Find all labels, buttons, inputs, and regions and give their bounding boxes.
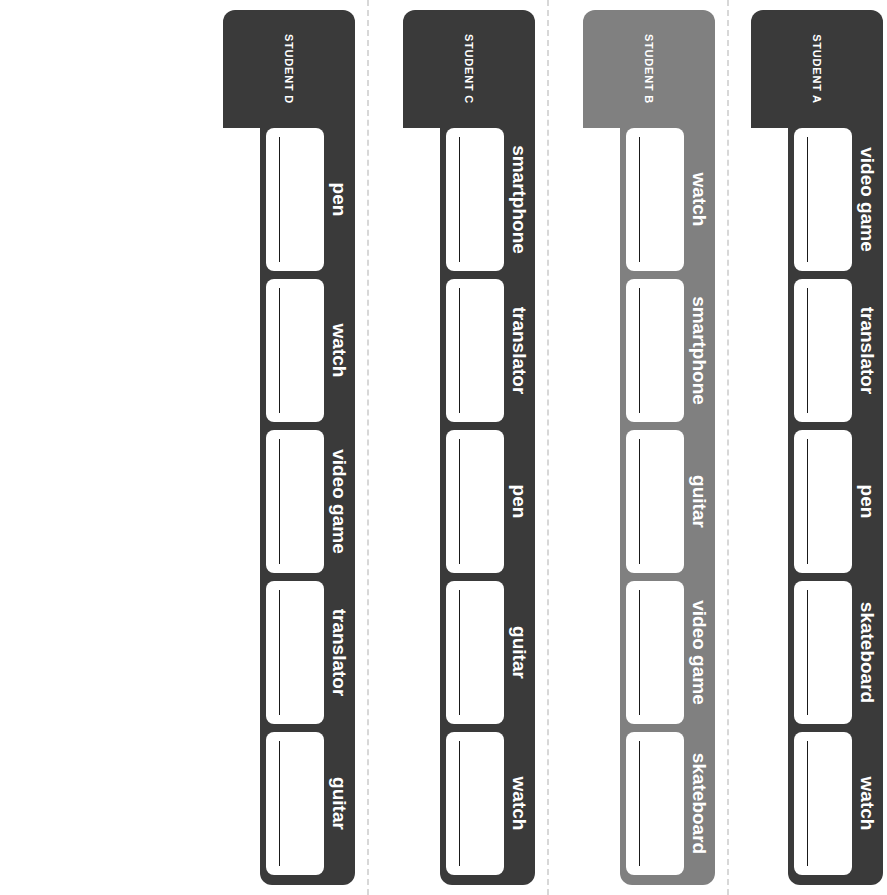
item-label: video game — [327, 430, 349, 573]
worksheet-item: guitar — [440, 581, 535, 724]
write-in-box[interactable] — [266, 128, 324, 271]
item-label: watch — [507, 732, 529, 875]
item-label: pen — [507, 430, 529, 573]
write-in-box[interactable] — [626, 128, 684, 271]
worksheet-item: pen — [260, 128, 355, 271]
write-in-box[interactable] — [794, 732, 852, 875]
worksheet-item: translator — [788, 279, 883, 422]
student-header-label: STUDENT A — [811, 34, 823, 104]
item-label: video game — [687, 581, 709, 724]
worksheet-item: watch — [620, 128, 715, 271]
write-in-rule-line — [639, 137, 640, 262]
write-in-rule-line — [279, 439, 280, 564]
student-card-body: penwatchvideo gametranslatorguitar — [260, 128, 355, 885]
student-header-label: STUDENT C — [463, 34, 475, 104]
write-in-rule-line — [807, 439, 808, 564]
write-in-box[interactable] — [794, 279, 852, 422]
worksheet-item: watch — [788, 732, 883, 875]
write-in-box[interactable] — [446, 128, 504, 271]
write-in-rule-line — [639, 288, 640, 413]
student-card-body: video gametranslatorpenskateboardwatch — [788, 128, 883, 885]
student-card: STUDENT Bwatchsmartphoneguitarvideo game… — [583, 10, 715, 885]
write-in-rule-line — [279, 590, 280, 715]
write-in-box[interactable] — [794, 581, 852, 724]
worksheet-item: video game — [788, 128, 883, 271]
item-label: watch — [687, 128, 709, 271]
write-in-box[interactable] — [626, 581, 684, 724]
student-card-header: STUDENT B — [583, 10, 715, 128]
student-card-body: watchsmartphoneguitarvideo gameskateboar… — [620, 128, 715, 885]
worksheet-item: guitar — [260, 732, 355, 875]
write-in-rule-line — [639, 439, 640, 564]
write-in-rule-line — [459, 590, 460, 715]
worksheet-item: video game — [260, 430, 355, 573]
student-column-student-d: STUDENT Dpenwatchvideo gametranslatorgui… — [191, 0, 367, 895]
write-in-rule-line — [807, 590, 808, 715]
write-in-box[interactable] — [266, 430, 324, 573]
write-in-box[interactable] — [446, 430, 504, 573]
write-in-box[interactable] — [626, 279, 684, 422]
item-label: smartphone — [507, 128, 529, 271]
write-in-rule-line — [459, 741, 460, 866]
write-in-rule-line — [279, 741, 280, 866]
student-card-body: smartphonetranslatorpenguitarwatch — [440, 128, 535, 885]
student-card-header: STUDENT A — [751, 10, 883, 128]
item-label: watch — [327, 279, 349, 422]
write-in-box[interactable] — [626, 430, 684, 573]
write-in-box[interactable] — [446, 732, 504, 875]
item-label: translator — [855, 279, 877, 422]
worksheet-item: watch — [440, 732, 535, 875]
worksheet-sheet: STUDENT Avideo gametranslatorpenskateboa… — [191, 0, 887, 895]
item-label: guitar — [327, 732, 349, 875]
student-card: STUDENT Dpenwatchvideo gametranslatorgui… — [223, 10, 355, 885]
item-label: pen — [327, 128, 349, 271]
write-in-box[interactable] — [446, 279, 504, 422]
student-column-student-c: STUDENT Csmartphonetranslatorpenguitarwa… — [367, 0, 547, 895]
item-label: video game — [855, 128, 877, 271]
worksheet-item: video game — [620, 581, 715, 724]
worksheet-item: translator — [260, 581, 355, 724]
write-in-box[interactable] — [794, 430, 852, 573]
column-divider — [367, 0, 369, 895]
write-in-rule-line — [279, 137, 280, 262]
item-label: skateboard — [855, 581, 877, 724]
write-in-rule-line — [639, 590, 640, 715]
write-in-rule-line — [807, 288, 808, 413]
student-columns: STUDENT Avideo gametranslatorpenskateboa… — [191, 0, 887, 895]
student-column-student-a: STUDENT Avideo gametranslatorpenskateboa… — [727, 0, 887, 895]
write-in-rule-line — [807, 137, 808, 262]
write-in-rule-line — [279, 288, 280, 413]
write-in-rule-line — [639, 741, 640, 866]
worksheet-item: translator — [440, 279, 535, 422]
student-card: STUDENT Avideo gametranslatorpenskateboa… — [751, 10, 883, 885]
worksheet-item: smartphone — [620, 279, 715, 422]
worksheet-item: pen — [788, 430, 883, 573]
write-in-box[interactable] — [266, 732, 324, 875]
worksheet-item: pen — [440, 430, 535, 573]
item-label: guitar — [507, 581, 529, 724]
student-header-label: STUDENT D — [283, 34, 295, 104]
write-in-box[interactable] — [626, 732, 684, 875]
write-in-rule-line — [459, 288, 460, 413]
student-column-student-b: STUDENT Bwatchsmartphoneguitarvideo game… — [547, 0, 727, 895]
student-card-header: STUDENT C — [403, 10, 535, 128]
item-label: guitar — [687, 430, 709, 573]
column-divider — [547, 0, 549, 895]
write-in-box[interactable] — [266, 279, 324, 422]
item-label: translator — [327, 581, 349, 724]
write-in-rule-line — [807, 741, 808, 866]
write-in-box[interactable] — [446, 581, 504, 724]
write-in-box[interactable] — [266, 581, 324, 724]
worksheet-item: guitar — [620, 430, 715, 573]
student-header-label: STUDENT B — [643, 34, 655, 104]
student-card: STUDENT Csmartphonetranslatorpenguitarwa… — [403, 10, 535, 885]
item-label: translator — [507, 279, 529, 422]
write-in-box[interactable] — [794, 128, 852, 271]
column-divider — [727, 0, 729, 895]
worksheet-item: skateboard — [620, 732, 715, 875]
student-card-header: STUDENT D — [223, 10, 355, 128]
item-label: watch — [855, 732, 877, 875]
item-label: skateboard — [687, 732, 709, 875]
item-label: pen — [855, 430, 877, 573]
write-in-rule-line — [459, 137, 460, 262]
